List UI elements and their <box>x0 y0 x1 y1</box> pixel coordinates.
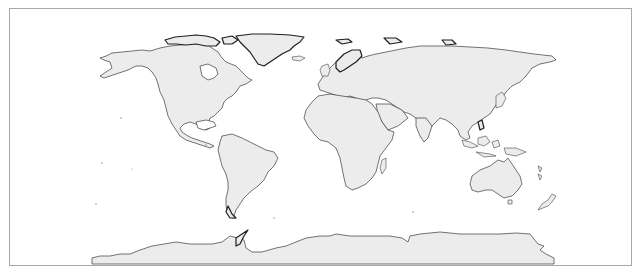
baffin-island <box>222 36 238 44</box>
region-new-guinea <box>504 148 526 156</box>
region-sulawesi <box>492 140 500 148</box>
region-franz-josef <box>384 38 402 44</box>
speck <box>273 217 275 219</box>
speck <box>205 144 207 146</box>
region-pacific-island <box>538 166 542 172</box>
region-iceland <box>292 56 305 61</box>
region-new-zealand <box>538 194 556 210</box>
region-java <box>476 152 496 157</box>
speck <box>412 211 414 213</box>
gulf-of-mexico <box>196 120 216 130</box>
region-south-america <box>218 134 278 218</box>
region-tasmania <box>508 200 512 204</box>
region-severnaya <box>442 40 456 45</box>
region-antarctica <box>92 232 554 264</box>
region-british-isles <box>320 64 330 76</box>
speck <box>131 168 132 169</box>
speck <box>95 203 97 205</box>
region-philippines <box>478 120 484 130</box>
speck <box>120 117 122 119</box>
region-greenland <box>236 34 304 66</box>
world-map <box>0 0 640 273</box>
region-madagascar <box>380 158 386 174</box>
region-borneo <box>478 136 490 146</box>
region-arctic-islands <box>165 35 220 46</box>
region-sumatra <box>462 140 478 148</box>
speck <box>101 162 103 164</box>
region-pacific-island <box>538 174 542 180</box>
region-north-america <box>100 42 252 148</box>
region-svalbard <box>336 39 352 44</box>
region-australia <box>470 158 522 198</box>
